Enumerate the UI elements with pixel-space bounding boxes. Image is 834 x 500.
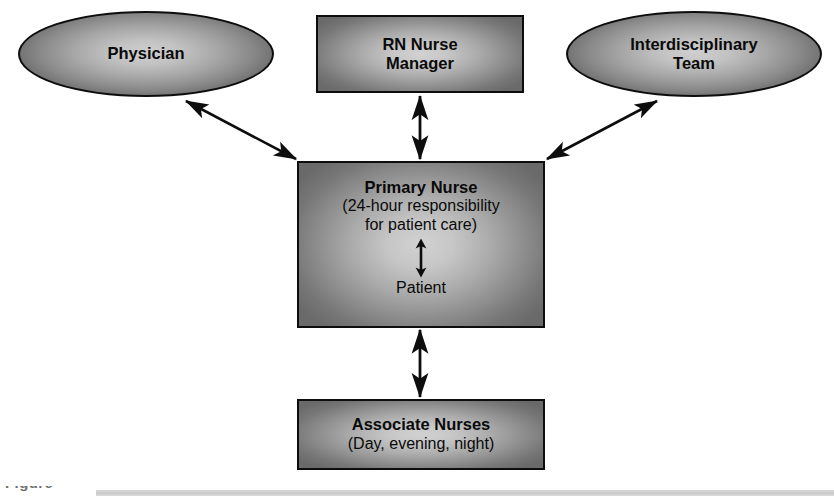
- connector-primary-nurse-to-physician: [186, 101, 296, 159]
- connector-primary-nurse-to-interdisciplinary-team: [547, 101, 657, 159]
- node-primary-nurse-subtitle-line1: (24-hour responsibility: [299, 197, 543, 216]
- connector-primary-nurse-to-patient: [410, 238, 432, 278]
- node-physician[interactable]: Physician: [18, 11, 274, 97]
- node-patient-label: Patient: [299, 279, 543, 298]
- node-primary-nurse-subtitle-line2: for patient care): [299, 216, 543, 235]
- node-interdisciplinary-team-label-line2: Team: [624, 54, 763, 73]
- node-primary-nurse-title: Primary Nurse: [299, 178, 543, 197]
- node-associate-nurses-title: Associate Nurses: [299, 415, 543, 434]
- node-physician-label: Physician: [20, 44, 272, 63]
- node-primary-nurse[interactable]: Primary Nurse (24-hour responsibility fo…: [297, 161, 545, 328]
- node-associate-nurses[interactable]: Associate Nurses (Day, evening, night): [297, 399, 545, 470]
- node-rn-nurse-manager[interactable]: RN Nurse Manager: [316, 15, 524, 93]
- node-rn-nurse-manager-label-line1: RN Nurse: [318, 35, 522, 54]
- caption-rule-bar: [96, 490, 834, 496]
- node-interdisciplinary-team[interactable]: Interdisciplinary Team: [566, 11, 822, 97]
- node-interdisciplinary-team-label-line1: Interdisciplinary: [624, 35, 763, 54]
- node-rn-nurse-manager-label-line2: Manager: [318, 54, 522, 73]
- node-associate-nurses-subtitle: (Day, evening, night): [299, 435, 543, 454]
- caption-fragment-text: Figure: [5, 486, 53, 491]
- diagram-canvas: Physician RN Nurse Manager Interdiscipli…: [0, 0, 834, 500]
- caption-strip: Figure: [0, 486, 834, 500]
